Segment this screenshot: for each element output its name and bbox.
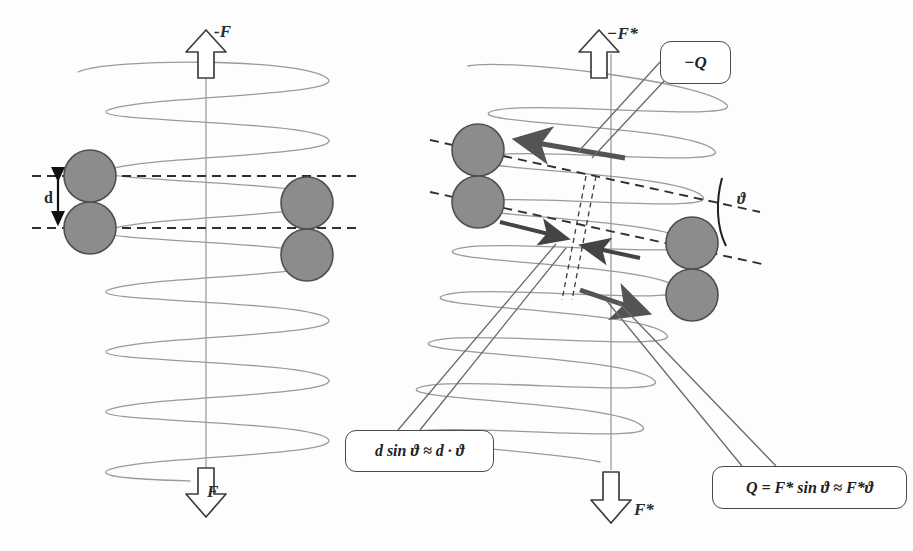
left-top-force-label: -F	[214, 22, 231, 42]
right-construction-line-b	[572, 176, 596, 300]
displacement-callout: d sin ϑ ≈ d · ϑ	[345, 430, 494, 472]
sphere	[666, 269, 718, 321]
right-bottom-force-label: F*	[634, 500, 654, 520]
right-construction-line-a	[562, 176, 586, 300]
shear-arrow-middle	[584, 246, 640, 258]
torque-formula-callout: Q = F* sin ϑ ≈ F*ϑ	[712, 466, 907, 509]
angle-arc	[718, 178, 726, 246]
torque-callout: −Q	[660, 41, 731, 84]
displacement-callout-leader	[398, 244, 566, 430]
left-bottom-force-arrow	[186, 468, 226, 517]
angle-label-theta: ϑ	[737, 190, 745, 208]
sphere	[281, 229, 333, 281]
sphere	[64, 150, 116, 202]
left-sphere-pair-right	[281, 177, 333, 281]
sphere	[452, 176, 504, 228]
left-bottom-force-label: F	[207, 482, 218, 502]
left-panel	[32, 30, 356, 517]
left-sphere-pair-left	[64, 150, 116, 254]
sphere	[666, 217, 718, 269]
right-bottom-force-arrow	[591, 472, 631, 523]
distance-label-d: d	[44, 189, 53, 207]
sphere	[281, 177, 333, 229]
right-sphere-pair-left	[452, 124, 504, 228]
right-sphere-pair-right	[666, 217, 718, 321]
torque-arrow	[519, 140, 625, 158]
sphere	[64, 202, 116, 254]
sphere	[452, 124, 504, 176]
torque-formula-callout-leader	[606, 300, 776, 466]
diagram-stage: -F F d −F* F* ϑ −Q d sin ϑ ≈ d · ϑ Q = F…	[0, 0, 913, 551]
right-top-force-label: −F*	[607, 24, 638, 44]
shear-arrow-upper	[500, 222, 565, 238]
